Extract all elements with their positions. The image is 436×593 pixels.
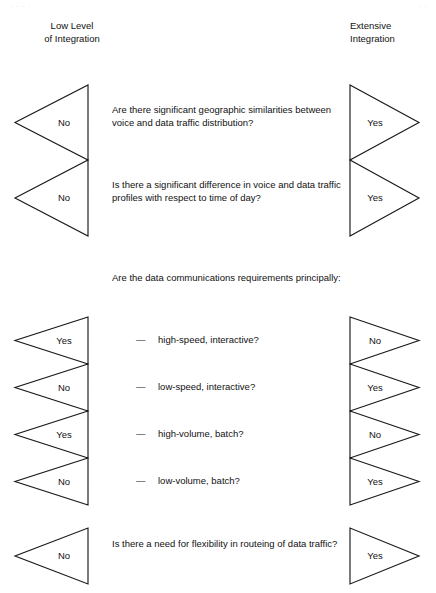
answer-label-left-q3c: Yes	[44, 429, 84, 440]
option-dash-icon: —	[136, 428, 158, 441]
answer-label-right-q2: Yes	[355, 192, 395, 203]
option-row-high-volume-batch: — high-volume, batch?	[136, 428, 346, 441]
answer-label-right-q1: Yes	[355, 117, 395, 128]
answer-label-right-q3d: Yes	[355, 476, 395, 487]
answer-label-left-q4: No	[44, 550, 84, 561]
answer-label-left-q1: No	[44, 117, 84, 128]
answer-label-right-q3c: No	[355, 429, 395, 440]
option-label-high-volume-batch: high-volume, batch?	[158, 428, 244, 441]
option-label-high-speed-interactive: high-speed, interactive?	[158, 334, 259, 347]
answer-label-right-q3a: No	[355, 335, 395, 346]
option-dash-icon: —	[136, 475, 158, 488]
question-text-q1: Are there significant geographic similar…	[112, 104, 344, 129]
question-text-q2: Is there a significant difference in voi…	[112, 179, 344, 204]
option-row-high-speed-interactive: — high-speed, interactive?	[136, 334, 346, 347]
triangle-scale-graphics	[0, 0, 436, 593]
answer-label-left-q3d: No	[44, 476, 84, 487]
option-label-low-volume-batch: low-volume, batch?	[158, 475, 240, 488]
option-row-low-volume-batch: — low-volume, batch?	[136, 475, 346, 488]
question-text-q4: Is there a need for flexibility in route…	[112, 538, 344, 551]
option-row-low-speed-interactive: — low-speed, interactive?	[136, 381, 346, 394]
diagram-page: · · · · · · Low Level of Integration Ext…	[0, 0, 436, 593]
option-dash-icon: —	[136, 381, 158, 394]
answer-label-left-q3b: No	[44, 382, 84, 393]
option-label-low-speed-interactive: low-speed, interactive?	[158, 381, 255, 394]
answer-label-left-q2: No	[44, 192, 84, 203]
answer-label-right-q4: Yes	[355, 550, 395, 561]
option-dash-icon: —	[136, 334, 158, 347]
section-heading-data-communications-requirements: Are the data communications requirements…	[112, 272, 344, 285]
answer-label-left-q3a: Yes	[44, 335, 84, 346]
answer-label-right-q3b: Yes	[355, 382, 395, 393]
